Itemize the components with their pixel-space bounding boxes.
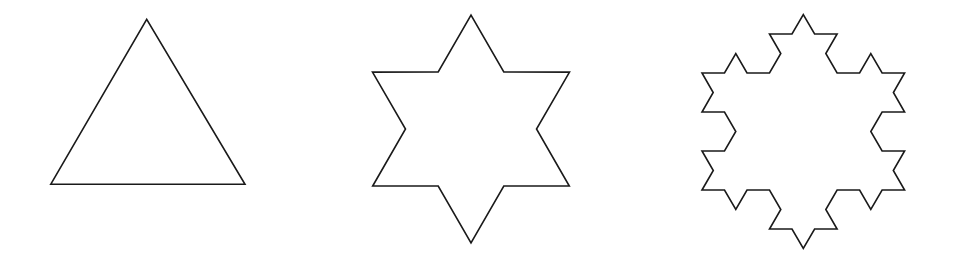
koch-figure [0,0,956,261]
koch-iteration-2-snowflake [702,15,905,249]
koch-iteration-0-triangle [51,19,245,184]
koch-iteration-1-star [373,15,570,243]
